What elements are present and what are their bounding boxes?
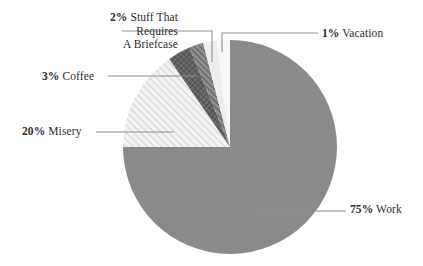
pie-slices <box>123 40 337 254</box>
pie-label-briefcase-name2: Requires <box>60 25 178 39</box>
pie-label-vacation-pct: 1% <box>322 27 339 39</box>
pie-label-briefcase: 2% Stuff That Requires A Briefcase <box>60 11 178 52</box>
pie-label-misery-name: Misery <box>48 125 81 137</box>
pie-label-vacation: 1% Vacation <box>322 27 383 41</box>
pie-chart: 2% Stuff That Requires A Briefcase 1% Va… <box>0 0 423 266</box>
pie-label-briefcase-line1: 2% Stuff That <box>60 11 178 25</box>
pie-label-coffee-name: Coffee <box>62 70 94 82</box>
pie-label-briefcase-name3: A Briefcase <box>60 38 178 52</box>
pie-label-work-pct: 75% <box>350 203 373 215</box>
pie-label-briefcase-name1: Stuff That <box>130 11 178 23</box>
pie-label-work: 75% Work <box>350 203 402 217</box>
pie-label-misery-pct: 20% <box>22 125 45 137</box>
pie-label-briefcase-pct: 2% <box>110 11 127 23</box>
pie-label-vacation-name: Vacation <box>342 27 383 39</box>
pie-label-work-name: Work <box>376 203 402 215</box>
pie-label-misery: 20% Misery <box>22 125 81 139</box>
pie-label-coffee: 3% Coffee <box>42 70 94 84</box>
pie-label-coffee-pct: 3% <box>42 70 59 82</box>
